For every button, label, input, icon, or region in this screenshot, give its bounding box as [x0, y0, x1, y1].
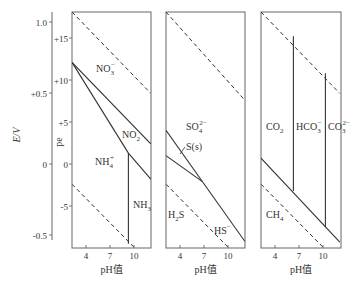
pe-tick-label: +10 — [54, 76, 69, 86]
ph-tick-label: 4 — [178, 251, 183, 261]
species-label: S(s) — [186, 141, 202, 153]
ph-axis-label: pH值 — [194, 263, 216, 275]
e-axis-label: E/V — [11, 126, 22, 144]
panel-carbon: 4710pH值CO2HCO3−CO32−CH4 — [261, 12, 350, 275]
ph-tick-label: 10 — [130, 251, 140, 261]
pe-tick-label: 0 — [64, 160, 69, 170]
e-tick-label: 0 — [43, 160, 48, 170]
boundary-line — [72, 62, 128, 153]
species-label: H2S — [168, 209, 184, 223]
pe-axis: +15+10+50-5 — [54, 34, 72, 212]
pe-tick-label: +15 — [54, 34, 69, 44]
ph-tick-label: 4 — [273, 251, 278, 261]
ph-tick-label: 10 — [319, 251, 329, 261]
e-tick-label: 1.0 — [36, 18, 48, 28]
ph-axis-label: pH值 — [290, 263, 312, 275]
e-axis: 1.0+0.50-0.5 E/V — [11, 12, 52, 241]
species-label: HS− — [214, 223, 231, 236]
species-label: HCO3− — [296, 119, 322, 135]
ph-tick-label: 10 — [224, 251, 234, 261]
pe-tick-label: +5 — [58, 118, 68, 128]
species-label: NO2 — [122, 129, 140, 143]
species-label: CO2 — [266, 121, 284, 135]
pe-tick-label: -5 — [61, 202, 69, 212]
water-stability-line — [72, 184, 135, 248]
species-label: SO42− — [186, 119, 207, 135]
ph-tick-label: 7 — [202, 251, 207, 261]
species-label: CO32− — [328, 119, 350, 135]
species-label: NO3− — [96, 61, 115, 77]
boundary-line — [128, 153, 150, 179]
eh-ph-diagram: 1.0+0.50-0.5 E/V pe +15+10+50-5 4710pH值N… — [0, 0, 354, 283]
boundary-line — [166, 156, 202, 182]
species-label: NH3 — [133, 199, 151, 213]
pe-axis-label: pe — [53, 137, 64, 147]
water-stability-line — [261, 12, 340, 93]
ph-tick-label: 7 — [108, 251, 113, 261]
e-tick-label: +0.5 — [31, 89, 48, 99]
ph-axis-label: pH值 — [100, 263, 122, 275]
panel-sulfur: 4710pH值SO42−S(s)H2SHS− — [166, 12, 245, 275]
e-tick-label: -0.5 — [33, 231, 48, 241]
ph-tick-label: 4 — [84, 251, 89, 261]
water-stability-line — [166, 12, 245, 100]
species-label: CH4 — [266, 209, 284, 223]
boundary-line — [261, 158, 340, 242]
species-label: NH4+ — [95, 154, 114, 170]
panel-frame — [72, 12, 151, 248]
ph-tick-label: 7 — [297, 251, 302, 261]
panel-nitrogen: 4710pH值NO3−NO2NH4+NH3 — [72, 12, 151, 275]
